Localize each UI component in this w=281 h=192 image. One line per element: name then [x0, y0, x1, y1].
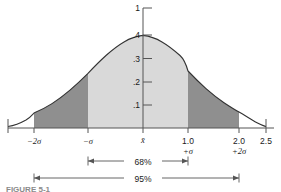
- bracket-95-right-arrow: [233, 175, 239, 180]
- y-tick-label-1: 1: [135, 3, 140, 13]
- y-tick-label-point3: .3: [133, 54, 140, 64]
- x-tick-sublabel-plus-1-sigma: +σ: [183, 146, 194, 156]
- figure-caption: FIGURE 5-1: [6, 185, 51, 192]
- x-tick-label-one-point-zero: 1.0: [182, 136, 194, 146]
- x-tick-label-two-point-five: 2.5: [260, 136, 272, 146]
- bracket-68: 68%: [88, 154, 188, 168]
- x-tick-label-minus-1-sigma: −σ: [83, 136, 94, 146]
- x-tick-label-two-point-zero: 2.0: [233, 136, 245, 146]
- y-tick-label-point2: .2: [133, 77, 140, 87]
- bracket-68-label: 68%: [134, 157, 151, 167]
- x-tick-label-minus-2-sigma: −2σ: [27, 136, 42, 146]
- bracket-95: 95%: [34, 171, 239, 185]
- x-tick-sublabel-plus-2-sigma: +2σ: [232, 146, 247, 156]
- bell-curve-chart: 1 .4 .3 .2 .1 −2σ −σ x̄ 1.0 +σ 2.0 +2σ 2…: [0, 0, 281, 192]
- x-tick-label-xbar: x̄: [140, 135, 146, 145]
- bracket-68-right-arrow: [182, 158, 188, 163]
- y-tick-label-point4: .4: [133, 30, 140, 40]
- bracket-68-left-arrow: [88, 158, 94, 163]
- y-tick-label-point1: .1: [133, 100, 140, 110]
- bracket-95-left-arrow: [34, 175, 40, 180]
- bracket-95-label: 95%: [134, 174, 151, 184]
- normal-distribution-figure: 1 .4 .3 .2 .1 −2σ −σ x̄ 1.0 +σ 2.0 +2σ 2…: [0, 0, 281, 192]
